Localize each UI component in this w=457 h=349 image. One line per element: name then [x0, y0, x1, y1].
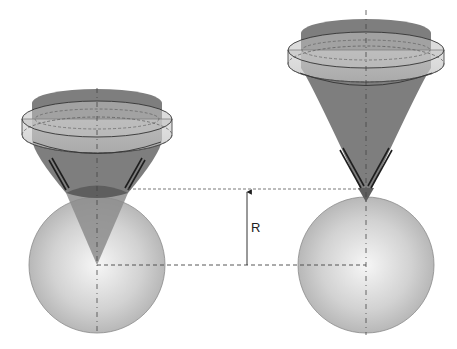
left-panel — [22, 88, 172, 335]
diagram: R — [0, 0, 457, 349]
radius-label: R — [251, 220, 260, 235]
right-panel — [288, 10, 444, 335]
